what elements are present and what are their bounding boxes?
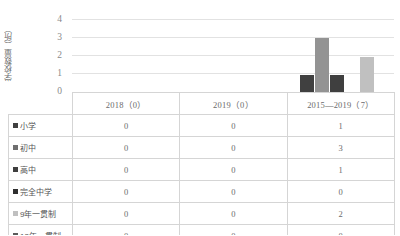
cell-value: 0 bbox=[180, 181, 287, 203]
gridline-2 bbox=[72, 55, 394, 56]
plot-area bbox=[72, 19, 394, 93]
cell-value: 1 bbox=[287, 159, 394, 181]
row-label: 完全中学 bbox=[20, 188, 52, 197]
row-header-小学: 小学 bbox=[9, 115, 73, 137]
legend-swatch-icon bbox=[13, 233, 18, 235]
table-body: 小学001初中003高中001完全中学0009年一贯制00212年一贯制000 bbox=[9, 115, 395, 236]
cell-value: 0 bbox=[180, 115, 287, 137]
y-axis-label: 学校数量（所） bbox=[2, 14, 16, 92]
data-table: 2018（0） 2019（0） 2015—2019（7） 小学001初中003高… bbox=[8, 92, 395, 235]
gridline-4 bbox=[72, 19, 394, 20]
table-row: 初中003 bbox=[9, 137, 395, 159]
row-label: 12年一贯制 bbox=[20, 232, 61, 235]
cell-value: 0 bbox=[180, 203, 287, 225]
row-header-12年一贯制: 12年一贯制 bbox=[9, 225, 73, 236]
cell-value: 1 bbox=[287, 115, 394, 137]
bar-9年一贯制 bbox=[360, 57, 374, 94]
cell-value: 0 bbox=[180, 137, 287, 159]
table-row: 完全中学000 bbox=[9, 181, 395, 203]
gridline-1 bbox=[72, 73, 394, 74]
table-row: 高中001 bbox=[9, 159, 395, 181]
column-header-2019: 2019（0） bbox=[180, 93, 287, 115]
bar-高中 bbox=[330, 75, 344, 93]
bar-chart: 学校数量（所） 4 3 2 1 0 bbox=[0, 0, 400, 96]
cell-value: 0 bbox=[287, 225, 394, 236]
y-axis-tick-2: 2 bbox=[48, 50, 62, 60]
row-header-初中: 初中 bbox=[9, 137, 73, 159]
legend-swatch-icon bbox=[13, 145, 18, 150]
table-row: 9年一贯制002 bbox=[9, 203, 395, 225]
bar-初中 bbox=[315, 38, 329, 93]
column-header-2018: 2018（0） bbox=[73, 93, 180, 115]
table-row: 小学001 bbox=[9, 115, 395, 137]
data-table-wrapper: 2018（0） 2019（0） 2015—2019（7） 小学001初中003高… bbox=[8, 92, 394, 235]
chart-with-data-table: 学校数量（所） 4 3 2 1 0 2018（0） 2019（0） bbox=[0, 0, 400, 235]
legend-swatch-icon bbox=[13, 211, 18, 216]
cell-value: 0 bbox=[287, 181, 394, 203]
cell-value: 0 bbox=[73, 115, 180, 137]
row-label: 9年一贯制 bbox=[20, 210, 56, 219]
row-header-完全中学: 完全中学 bbox=[9, 181, 73, 203]
bar-小学 bbox=[300, 75, 314, 93]
row-label: 初中 bbox=[20, 144, 36, 153]
column-header-2015-2019: 2015—2019（7） bbox=[287, 93, 394, 115]
table-corner-cell bbox=[9, 93, 73, 115]
legend-swatch-icon bbox=[13, 167, 18, 172]
cell-value: 0 bbox=[73, 203, 180, 225]
cell-value: 0 bbox=[180, 159, 287, 181]
legend-swatch-icon bbox=[13, 123, 18, 128]
cell-value: 2 bbox=[287, 203, 394, 225]
table-row: 12年一贯制000 bbox=[9, 225, 395, 236]
cell-value: 0 bbox=[73, 137, 180, 159]
row-label: 小学 bbox=[20, 122, 36, 131]
legend-swatch-icon bbox=[13, 189, 18, 194]
row-label: 高中 bbox=[20, 166, 36, 175]
row-header-高中: 高中 bbox=[9, 159, 73, 181]
cell-value: 3 bbox=[287, 137, 394, 159]
table-header-row: 2018（0） 2019（0） 2015—2019（7） bbox=[9, 93, 395, 115]
cell-value: 0 bbox=[180, 225, 287, 236]
gridline-3 bbox=[72, 37, 394, 38]
cell-value: 0 bbox=[73, 181, 180, 203]
cell-value: 0 bbox=[73, 159, 180, 181]
y-axis-tick-3: 3 bbox=[48, 32, 62, 42]
y-axis-tick-4: 4 bbox=[48, 14, 62, 24]
y-axis-tick-1: 1 bbox=[48, 68, 62, 78]
cell-value: 0 bbox=[73, 225, 180, 236]
row-header-9年一贯制: 9年一贯制 bbox=[9, 203, 73, 225]
